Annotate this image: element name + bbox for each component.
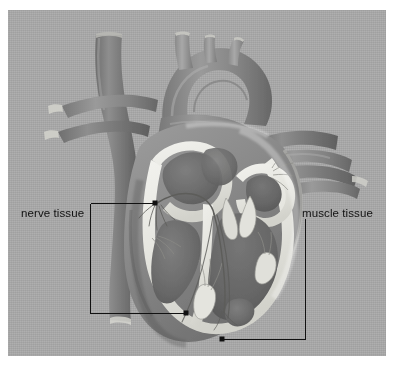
figure-root: nerve tissue muscle tissue	[0, 0, 400, 367]
label-muscle-tissue: muscle tissue	[302, 207, 373, 220]
heart-illustration	[0, 0, 400, 367]
label-nerve-tissue: nerve tissue	[21, 207, 84, 220]
